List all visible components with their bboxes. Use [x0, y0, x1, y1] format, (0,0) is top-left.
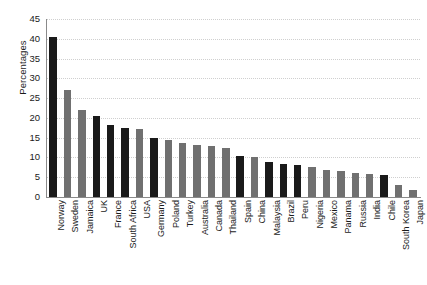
x-tick-label: Russia	[359, 200, 368, 228]
x-axis-tick-labels: NorwaySwedenJamaicaUKFranceSouth AfricaU…	[46, 200, 421, 285]
x-tick-label: Brazil	[287, 200, 296, 223]
x-tick-label: China	[258, 200, 267, 224]
bar	[136, 129, 143, 197]
gridline	[46, 157, 420, 158]
bar	[193, 145, 200, 197]
x-tick-label: Poland	[172, 200, 181, 228]
x-tick-label: Spain	[244, 200, 253, 223]
x-tick-label: Germany	[157, 200, 166, 237]
x-tick-label: Sweden	[71, 200, 80, 233]
y-axis-line	[46, 19, 47, 198]
y-tick-label: 30	[8, 74, 40, 84]
y-tick-label: 25	[8, 93, 40, 103]
x-tick-label: France	[114, 200, 123, 228]
y-tick-label: 35	[8, 54, 40, 64]
x-tick-label: Mexico	[330, 200, 339, 229]
x-tick-label: Peru	[301, 200, 310, 219]
bar	[337, 171, 344, 198]
x-tick-label: Turkey	[186, 200, 195, 227]
y-tick-label: 10	[8, 153, 40, 163]
x-axis-line	[46, 197, 421, 198]
bar	[121, 128, 128, 197]
y-tick-label: 40	[8, 34, 40, 44]
x-tick-label: Nigeria	[316, 200, 325, 229]
x-tick-label: South Korea	[402, 200, 411, 250]
x-tick-label: Australia	[201, 200, 210, 235]
x-tick-label: Panama	[344, 200, 353, 234]
x-tick-label: Malaysia	[273, 200, 282, 236]
bar	[78, 110, 85, 197]
gridline	[46, 39, 420, 40]
bar	[323, 170, 330, 197]
bar	[165, 140, 172, 197]
bar	[265, 162, 272, 197]
x-tick-label: Thailand	[229, 200, 238, 235]
gridline	[46, 98, 420, 99]
gridline	[46, 177, 420, 178]
x-tick-label: Norway	[57, 200, 66, 231]
x-tick-label: USA	[143, 200, 152, 219]
gridline	[46, 138, 420, 139]
bar	[64, 90, 71, 197]
bar	[380, 175, 387, 197]
y-tick-label: 0	[8, 192, 40, 202]
bar	[236, 156, 243, 197]
bar	[208, 146, 215, 197]
gridline	[46, 59, 420, 60]
bar	[308, 167, 315, 197]
bar-chart: Percentages 051015202530354045 NorwaySwe…	[0, 0, 427, 285]
bar	[179, 143, 186, 197]
gridline	[46, 118, 420, 119]
y-tick-label: 15	[8, 133, 40, 143]
x-tick-label: South Africa	[129, 200, 138, 249]
x-tick-label: Jamaica	[86, 200, 95, 234]
gridline	[46, 19, 420, 20]
x-tick-label: Canada	[215, 200, 224, 232]
bar	[222, 148, 229, 197]
bar	[150, 138, 157, 197]
y-tick-label: 45	[8, 14, 40, 24]
bar	[294, 165, 301, 197]
x-tick-label: India	[373, 200, 382, 220]
x-tick-label: Chile	[388, 200, 397, 221]
gridline	[46, 78, 420, 79]
bar	[280, 164, 287, 197]
bar	[49, 37, 56, 197]
bar	[395, 185, 402, 197]
x-tick-label: Japan	[416, 200, 425, 225]
bar	[107, 125, 114, 197]
bar	[409, 190, 416, 197]
y-tick-label: 5	[8, 172, 40, 182]
bar	[93, 116, 100, 197]
x-tick-label: UK	[100, 200, 109, 213]
bar	[251, 157, 258, 197]
bar	[352, 173, 359, 197]
y-tick-label: 20	[8, 113, 40, 123]
plot-area	[46, 19, 420, 197]
bar	[366, 174, 373, 197]
